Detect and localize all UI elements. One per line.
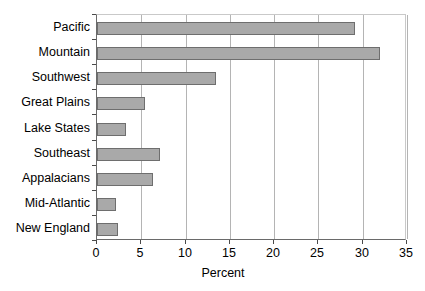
y-axis-category-label: Pacific bbox=[0, 21, 90, 34]
x-axis-tick bbox=[273, 240, 274, 244]
x-axis-tick-label: 35 bbox=[391, 246, 421, 260]
y-axis-category-label: Mountain bbox=[0, 46, 90, 59]
x-axis-tick bbox=[140, 240, 141, 244]
bar bbox=[97, 123, 126, 136]
bar bbox=[97, 223, 118, 236]
x-axis-tick-label: 30 bbox=[347, 246, 377, 260]
x-axis-tick-label: 0 bbox=[81, 246, 111, 260]
x-axis-tick bbox=[362, 240, 363, 244]
y-axis-tick bbox=[92, 240, 96, 241]
x-axis-tick-label: 15 bbox=[214, 246, 244, 260]
y-axis-tick bbox=[92, 215, 96, 216]
bar bbox=[97, 173, 153, 186]
bar bbox=[97, 97, 145, 110]
bar bbox=[97, 22, 355, 35]
y-axis-category-label: Southeast bbox=[0, 147, 90, 160]
x-axis-tick-label: 5 bbox=[125, 246, 155, 260]
x-axis-tick bbox=[96, 240, 97, 244]
x-axis-tick bbox=[406, 240, 407, 244]
x-axis-tick bbox=[317, 240, 318, 244]
bar-chart: Percent 05101520253035PacificMountainSou… bbox=[0, 0, 425, 291]
x-axis-tick-label: 25 bbox=[302, 246, 332, 260]
x-axis-tick bbox=[185, 240, 186, 244]
y-axis-tick bbox=[92, 64, 96, 65]
y-axis-category-label: Appalacians bbox=[0, 172, 90, 185]
x-axis-title: Percent bbox=[0, 266, 425, 280]
y-axis-tick bbox=[92, 39, 96, 40]
y-axis-category-label: New England bbox=[0, 222, 90, 235]
y-axis-category-label: Southwest bbox=[0, 71, 90, 84]
bar bbox=[97, 72, 216, 85]
y-axis-tick bbox=[92, 165, 96, 166]
x-axis-tick-label: 20 bbox=[258, 246, 288, 260]
y-axis-category-label: Great Plains bbox=[0, 96, 90, 109]
bar bbox=[97, 47, 380, 60]
y-axis-tick bbox=[92, 89, 96, 90]
y-axis-category-label: Mid-Atlantic bbox=[0, 197, 90, 210]
y-axis-category-label: Lake States bbox=[0, 122, 90, 135]
y-axis-tick bbox=[92, 190, 96, 191]
y-axis-tick bbox=[92, 14, 96, 15]
bar bbox=[97, 148, 160, 161]
x-axis-tick-label: 10 bbox=[170, 246, 200, 260]
bar bbox=[97, 198, 116, 211]
gridline bbox=[407, 15, 408, 239]
plot-area bbox=[96, 14, 406, 240]
x-axis-title-label: Percent bbox=[201, 266, 244, 280]
y-axis-tick bbox=[92, 140, 96, 141]
x-axis-tick bbox=[229, 240, 230, 244]
y-axis-tick bbox=[92, 114, 96, 115]
